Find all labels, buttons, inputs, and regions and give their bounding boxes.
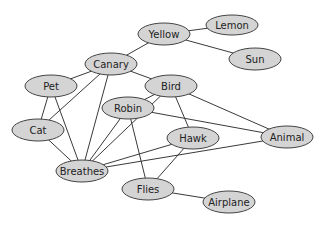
node-label: Lemon [215, 20, 249, 31]
node-cat: Cat [12, 119, 64, 141]
edge-robin-flies [128, 108, 148, 189]
node-yellow: Yellow [138, 23, 190, 45]
node-animal: Animal [261, 126, 313, 148]
node-label: Animal [270, 132, 305, 143]
node-canary: Canary [85, 53, 137, 75]
edge-canary-breathes [82, 64, 111, 171]
node-label: Canary [93, 59, 129, 70]
node-label: Bird [161, 81, 181, 92]
node-airplane: Airplane [203, 191, 255, 213]
node-label: Breathes [60, 166, 105, 177]
node-label: Robin [114, 103, 142, 114]
node-label: Yellow [148, 29, 180, 40]
node-label: Airplane [208, 197, 249, 208]
node-robin: Robin [102, 97, 154, 119]
node-sun: Sun [229, 48, 281, 70]
node-hawk: Hawk [167, 127, 219, 149]
node-label: Pet [43, 81, 59, 92]
node-lemon: Lemon [206, 15, 258, 35]
node-label: Sun [245, 54, 264, 65]
semantic-network-diagram: YellowLemonSunCanaryPetBirdRobinCatHawkA… [0, 0, 322, 226]
node-label: Cat [29, 125, 46, 136]
node-label: Hawk [179, 133, 207, 144]
node-pet: Pet [25, 75, 77, 97]
node-label: Flies [137, 184, 160, 195]
node-flies: Flies [122, 178, 174, 200]
node-bird: Bird [145, 75, 197, 97]
node-breathes: Breathes [56, 160, 108, 182]
